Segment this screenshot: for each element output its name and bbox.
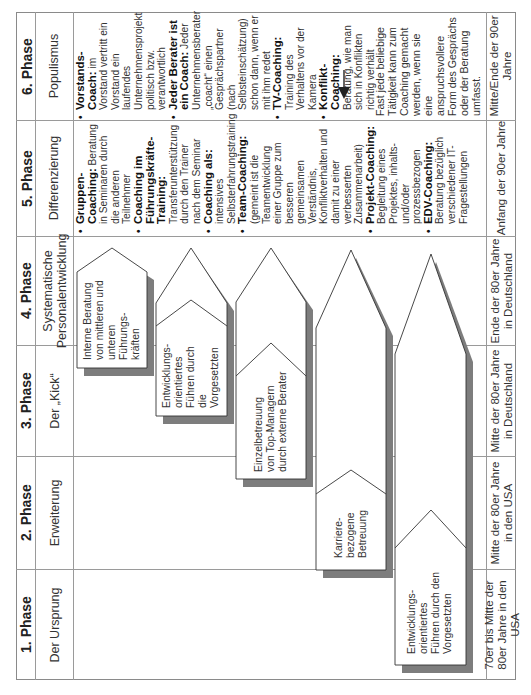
arrow-3-label: Einzelbetreuungvon Top-Managerndurch ext…: [239, 380, 303, 476]
arrow-4-label: Karriere-bezogeneBetreuung: [319, 498, 383, 566]
arrow-2-label: Entwicklungs-orientiertesFühren durch di…: [159, 330, 223, 412]
arrow-1-label: Interne Beratungvon mittleren undunteren…: [80, 276, 144, 364]
arrow-5-label: Entwicklungs-orientiertesFühren durch de…: [398, 552, 462, 662]
